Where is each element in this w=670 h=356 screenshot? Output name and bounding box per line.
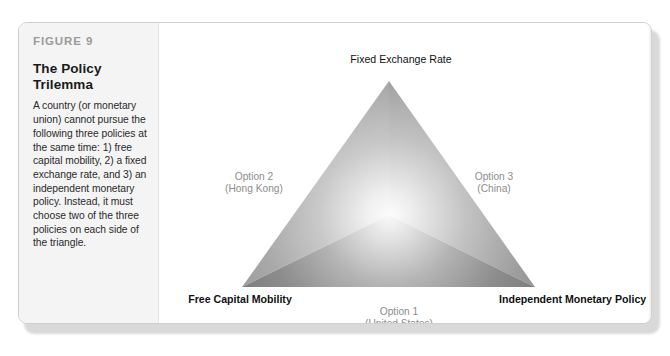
figure-title: The Policy Trilemma	[33, 61, 148, 93]
side-label-option-2: Option 2 (Hong Kong)	[199, 171, 309, 196]
figure-card: FIGURE 9 The Policy Trilemma A country (…	[18, 22, 652, 324]
side-label-option-3: Option 3 (China)	[439, 171, 549, 196]
figure-description: A country (or monetary union) cannot pur…	[33, 99, 148, 250]
diagram-panel: Fixed Exchange Rate Free Capital Mobilit…	[158, 23, 651, 323]
vertex-label-fixed-exchange-rate: Fixed Exchange Rate	[311, 53, 491, 66]
side-label-option-3-option: Option 3	[439, 171, 549, 183]
side-label-option-1-option: Option 1	[314, 306, 484, 318]
side-label-option-3-country: (China)	[439, 183, 549, 195]
figure-caption-column: FIGURE 9 The Policy Trilemma A country (…	[19, 23, 158, 323]
page-canvas: FIGURE 9 The Policy Trilemma A country (…	[0, 0, 670, 356]
vertex-label-independent-monetary-policy: Independent Monetary Policy	[499, 293, 639, 306]
side-label-option-1: Option 1 (United States)	[314, 306, 484, 323]
side-label-option-1-country: (United States)	[314, 318, 484, 323]
side-label-option-2-option: Option 2	[199, 171, 309, 183]
figure-number-label: FIGURE 9	[33, 35, 148, 48]
vertex-label-free-capital-mobility: Free Capital Mobility	[185, 293, 295, 306]
side-label-option-2-country: (Hong Kong)	[199, 183, 309, 195]
